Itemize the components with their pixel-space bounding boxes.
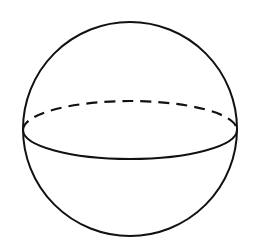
sphere-diagram — [0, 0, 254, 244]
background — [0, 0, 254, 244]
